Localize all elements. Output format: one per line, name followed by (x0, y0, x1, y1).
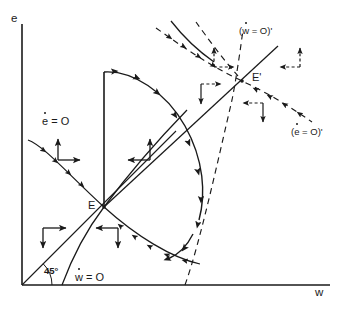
motion-arrows-up-left-right-of-E (128, 139, 150, 160)
edot-zero-prime-label: (e = O)' (291, 127, 323, 137)
motion-arrows-left-down-below-E (96, 228, 118, 248)
wdot-accent-w: w (75, 272, 83, 283)
motion-arrows-left-down-below-Eprime (243, 103, 263, 122)
saddle-trajectory (104, 71, 203, 260)
phase-diagram-figure: e w E E' e = O w = O (w = O)' (e = O)' 4… (0, 0, 347, 309)
wdot-zero-prime-label-text: = O)' (249, 25, 272, 36)
Eprime-upper-left-arm (171, 21, 214, 62)
wdot-zero-prime-label: (w = O)' (239, 26, 272, 36)
edot-zero-prime-locus (156, 28, 312, 122)
x-axis-label: w (315, 287, 323, 299)
equilibrium-point-E (102, 205, 106, 209)
edot-zero-locus (28, 140, 200, 264)
motion-arrows-up-right-left-of-E (58, 139, 80, 160)
angle-label: 45° (44, 266, 58, 276)
wdot-zero-prime-locus (185, 30, 243, 285)
motion-arrows-left-up-right-of-Eprime (280, 48, 300, 67)
wdot-zero-label-text: = O (83, 271, 104, 283)
edot-zero-label: e = O (42, 116, 69, 127)
equilibrium-point-E-prime (240, 79, 244, 83)
equilibrium-label-E-prime: E' (252, 72, 261, 83)
wdot-zero-label: w = O (75, 272, 104, 283)
equilibrium-label-E: E (88, 200, 95, 211)
edot-prime-accent-e: e (294, 127, 299, 137)
phase-diagram-canvas (0, 0, 347, 309)
edot-zero-label-text: = O (48, 115, 69, 127)
edot-zero-prime-label-text: = O)' (299, 126, 322, 137)
wdot-prime-accent-w: w (242, 26, 249, 36)
axis-group (22, 24, 330, 285)
edot-accent-e: e (42, 116, 48, 127)
upper-dashed-ray (196, 22, 238, 76)
forty-five-degree-ray (22, 131, 176, 285)
y-axis-label: e (11, 13, 17, 25)
